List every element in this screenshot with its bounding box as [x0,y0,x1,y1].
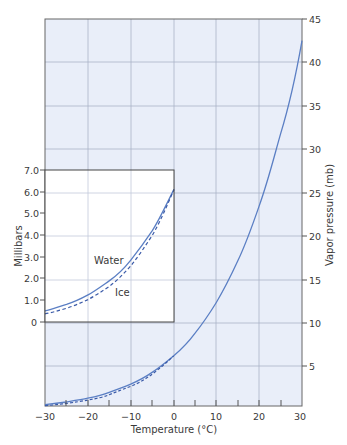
water-label: Water [94,255,124,266]
right-tick-20: 20 [309,231,321,242]
x-tick-20: 20 [253,411,265,422]
right-tick-30: 30 [309,144,321,155]
right-tick-45: 45 [309,14,321,25]
inset-tick-0: 0 [31,317,37,328]
inset-tick-3: 3.0 [24,252,39,263]
right-axis-ticks [302,19,307,366]
inset-tick-7: 7.0 [24,165,39,176]
inset-tick-1: 1.0 [24,295,39,306]
inset-tick-5: 5.0 [24,208,39,219]
right-tick-25: 25 [309,188,321,199]
x-axis-title: Temperature (°C) [130,424,217,435]
inset-y-ticks [40,170,45,322]
x-tick--30: −30 [35,411,55,422]
inset-y-labels: 7.0 6.0 5.0 4.0 3.0 2.0 1.0 0 [24,165,39,328]
x-tick--10: −10 [121,411,141,422]
right-axis-labels: 45 40 35 30 25 20 15 10 5 [309,14,321,372]
x-tick-0: 0 [171,411,177,422]
vapor-pressure-chart: 45 40 35 30 25 20 15 10 5 Vapor pressure… [0,0,347,445]
inset-tick-4: 4.0 [24,230,39,241]
inset-axis-title: Millibars [13,225,24,267]
x-tick-30: 30 [294,411,306,422]
x-tick-10: 10 [210,411,222,422]
x-tick--20: −20 [78,411,98,422]
inset-tick-6: 6.0 [24,187,39,198]
right-tick-10: 10 [309,318,321,329]
inset-tick-2: 2.0 [24,273,39,284]
right-tick-35: 35 [309,101,321,112]
right-tick-5: 5 [309,361,315,372]
right-tick-40: 40 [309,57,321,68]
ice-label: Ice [115,287,130,298]
x-axis-labels: −30 −20 −10 0 10 20 30 [35,411,306,422]
right-axis-title: Vapor pressure (mb) [324,164,335,266]
right-tick-15: 15 [309,275,321,286]
